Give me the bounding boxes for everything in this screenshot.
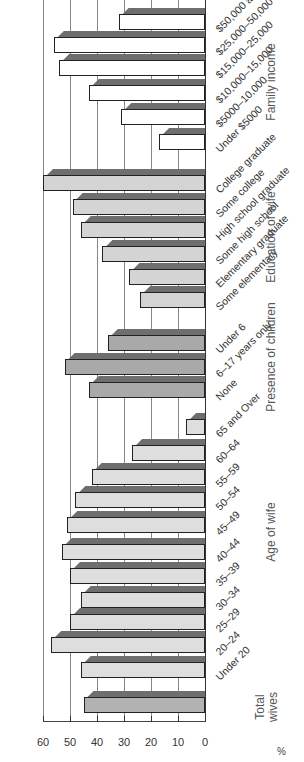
tick-0 — [205, 716, 206, 722]
baseline-axis — [205, 0, 206, 722]
bar--25-000-50-000 — [54, 37, 205, 53]
bar-30-34 — [81, 592, 205, 608]
bar-20-24 — [51, 637, 205, 653]
bar-45-49 — [67, 517, 205, 533]
y-tick-label: 60 — [33, 736, 53, 748]
bar--5000-10-000 — [121, 109, 205, 125]
gridline-60 — [43, 0, 44, 722]
bar--50-000-and-over — [119, 14, 205, 30]
group-title-family-income: Family income — [265, 2, 278, 162]
group-title-education-of-wife: Education of wife — [265, 157, 278, 317]
bar-none — [89, 382, 205, 398]
category-label: 60–64 — [213, 436, 242, 465]
tick-60 — [43, 716, 44, 722]
bar-under-20 — [81, 662, 205, 678]
bar-high-school-graduate — [81, 222, 205, 238]
bar-35-39 — [70, 568, 205, 584]
category-label: 45–49 — [213, 508, 242, 537]
y-tick-label: 30 — [114, 736, 134, 748]
y-tick-label: 40 — [87, 736, 107, 748]
y-tick-label: 20 — [141, 736, 161, 748]
bar-some-high-school — [102, 246, 205, 262]
tick-10 — [178, 716, 179, 722]
bar-under-6 — [108, 335, 205, 351]
bar-25-29 — [70, 614, 205, 630]
bar-50-54 — [75, 492, 205, 508]
bar-some-college — [73, 199, 205, 215]
bar-elementary-graduate — [129, 269, 205, 285]
bar--10-000-15-000 — [89, 85, 205, 101]
category-label: 30–34 — [213, 583, 242, 612]
bar-under-5000 — [159, 134, 205, 150]
category-label: 55–59 — [213, 460, 242, 489]
y-axis-unit-label: % — [277, 746, 286, 757]
category-label: 25–29 — [213, 605, 242, 634]
y-tick-label: 50 — [60, 736, 80, 748]
tick-50 — [70, 716, 71, 722]
bar--15-000-25-000 — [59, 60, 205, 76]
bar-65-and-over — [186, 419, 205, 435]
tick-40 — [97, 716, 98, 722]
rotated-bar-chart: 0102030405060Under 2020–2425–2930–3435–3… — [0, 0, 304, 762]
bar-40-44 — [62, 544, 205, 560]
bar-55-59 — [92, 469, 205, 485]
y-tick-label: 0 — [195, 736, 215, 748]
tick-30 — [124, 716, 125, 722]
bar-6-17-years-only — [65, 359, 205, 375]
group-title-total-wives: Total wives — [254, 682, 280, 732]
bar-some-elementary — [140, 292, 205, 308]
category-label: 50–54 — [213, 483, 242, 512]
category-label: None — [213, 376, 239, 402]
y-tick-label: 10 — [168, 736, 188, 748]
category-label: 40–44 — [213, 535, 242, 564]
tick-20 — [151, 716, 152, 722]
group-title-age-of-wife: Age of wife — [265, 452, 278, 612]
bar-60-64 — [132, 445, 205, 461]
bar-college-graduate — [43, 175, 205, 191]
category-label: 35–39 — [213, 559, 242, 588]
bar-total-wives — [84, 697, 206, 713]
